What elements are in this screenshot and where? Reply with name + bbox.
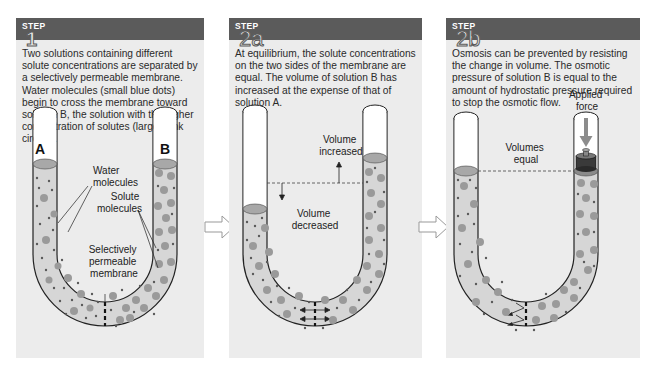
surface-a xyxy=(33,159,57,169)
step-1-panel: STEP 1 Two solutions containing differen… xyxy=(16,18,204,358)
surface-a xyxy=(243,204,267,214)
step-2a-panel: STEP 2a At equilibrium, the solute conce… xyxy=(229,18,422,358)
volume-increased-label: Volume increased xyxy=(319,134,362,157)
tube-b-label: B xyxy=(160,141,170,157)
surface-a xyxy=(454,166,478,176)
water-molecules-label: Water molecules xyxy=(93,165,138,188)
u-tube-diagram: Applied force Volumes equal xyxy=(446,18,640,358)
step-2b-panel: STEP 2b Osmosis can be prevented by resi… xyxy=(446,18,640,358)
tube-a-label: A xyxy=(35,141,45,157)
u-tube-diagram: Volume increased Volume decreased xyxy=(229,18,422,358)
surface-b xyxy=(153,159,177,169)
surface-b xyxy=(363,153,387,163)
solute-molecules-label: Solute molecules xyxy=(97,191,142,214)
membrane-label: Selectively permeable membrane xyxy=(89,244,140,279)
applied-force-label: Applied force xyxy=(569,89,605,112)
volume-decreased-label: Volume decreased xyxy=(292,208,339,231)
u-tube-diagram: A B Water molecules Solute molecules Sel… xyxy=(16,18,204,358)
volumes-equal-label: Volumes equal xyxy=(505,142,546,165)
